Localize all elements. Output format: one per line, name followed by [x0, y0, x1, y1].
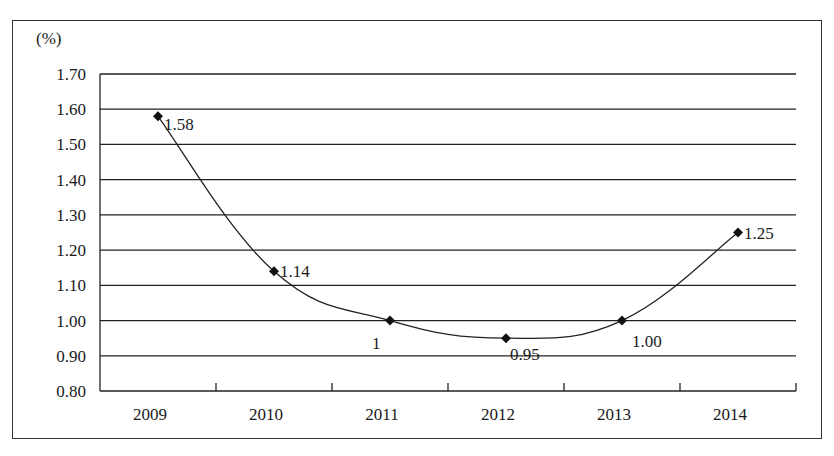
diamond-marker-icon	[385, 316, 395, 326]
diamond-marker-icon	[153, 111, 163, 121]
y-tick-label: 1.60	[56, 100, 86, 119]
data-label: 1.58	[164, 115, 194, 134]
data-label: 1	[372, 334, 381, 353]
y-tick-label: 1.70	[56, 65, 86, 84]
x-tick-label: 2014	[713, 405, 748, 424]
y-tick-label: 1.30	[56, 206, 86, 225]
y-tick-label: 1.00	[56, 312, 86, 331]
y-tick-label: 1.20	[56, 241, 86, 260]
data-label: 1.14	[280, 262, 310, 281]
y-tick-label: 1.50	[56, 135, 86, 154]
x-tick-label: 2010	[249, 405, 283, 424]
y-tick-label: 1.10	[56, 276, 86, 295]
diamond-marker-icon	[501, 333, 511, 343]
x-tick-label: 2009	[133, 405, 167, 424]
y-tick-label: 1.40	[56, 171, 86, 190]
diamond-marker-icon	[617, 316, 627, 326]
y-axis-unit-label: (%)	[36, 29, 61, 48]
x-tick-label: 2011	[365, 405, 398, 424]
data-label: 0.95	[510, 345, 540, 364]
x-tick-label: 2013	[597, 405, 631, 424]
y-tick-label: 0.90	[56, 347, 86, 366]
x-tick-label: 2012	[481, 405, 515, 424]
line-chart: (%)1.701.601.501.401.301.201.101.000.900…	[0, 0, 834, 456]
data-label: 1.00	[632, 332, 662, 351]
data-label: 1.25	[744, 224, 774, 243]
data-line	[158, 116, 738, 338]
y-tick-label: 0.80	[56, 382, 86, 401]
